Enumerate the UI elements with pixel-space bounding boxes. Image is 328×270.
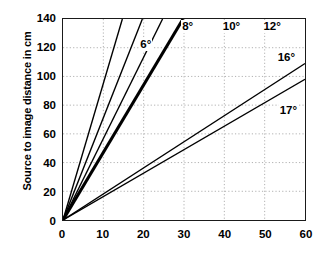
x-tick-label: 50 xyxy=(248,226,282,242)
series-label-6deg: 6° xyxy=(139,38,152,51)
x-axis-tick-labels: 0102030405060 xyxy=(0,226,328,244)
x-tick-label: 20 xyxy=(126,226,160,242)
series-label-16deg: 16° xyxy=(277,51,296,64)
chart-container: Source to image distance in cm 020406080… xyxy=(0,0,328,270)
y-tick-label: 80 xyxy=(4,98,56,112)
x-tick-label: 40 xyxy=(208,226,242,242)
series-line-16deg xyxy=(63,64,305,220)
series-label-17deg: 17° xyxy=(279,104,298,117)
series-lines xyxy=(63,19,305,220)
series-line-17deg xyxy=(63,79,305,220)
series-label-12deg: 12° xyxy=(262,20,281,33)
series-label-8deg: 8° xyxy=(181,20,194,33)
plot-area xyxy=(62,18,306,221)
x-tick-label: 0 xyxy=(45,226,79,242)
y-tick-label: 120 xyxy=(4,40,56,54)
series-line-8deg xyxy=(63,19,142,220)
y-tick-label: 140 xyxy=(4,11,56,25)
x-tick-label: 60 xyxy=(289,226,323,242)
series-line-12deg xyxy=(63,19,183,220)
x-tick-label: 10 xyxy=(86,226,120,242)
y-tick-label: 40 xyxy=(4,156,56,170)
x-tick-label: 30 xyxy=(167,226,201,242)
y-tick-label: 100 xyxy=(4,69,56,83)
y-tick-label: 20 xyxy=(4,185,56,199)
series-label-10deg: 10° xyxy=(222,20,241,33)
y-tick-label: 60 xyxy=(4,127,56,141)
